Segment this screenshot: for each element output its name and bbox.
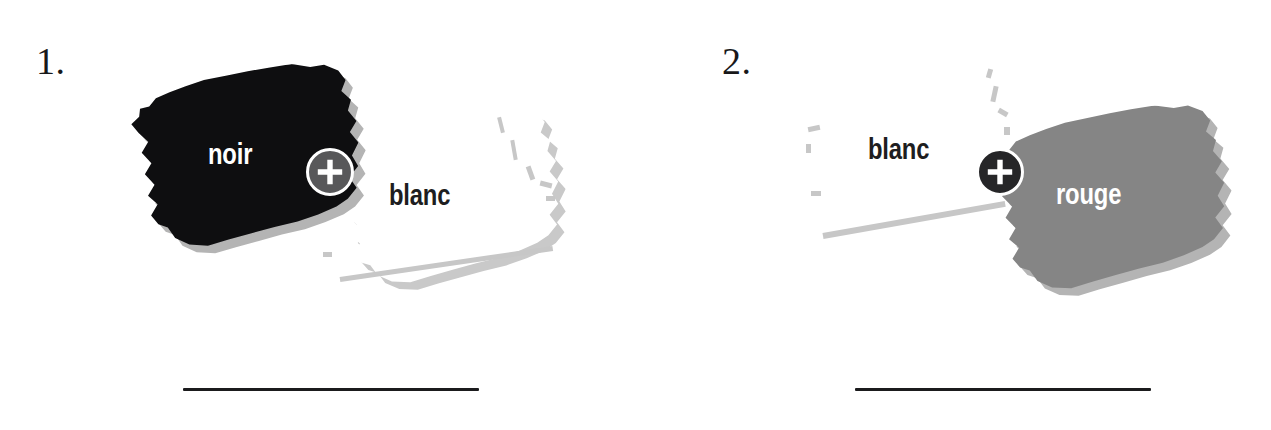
swatch-label-blanc-2: blanc: [868, 135, 929, 164]
swatch-outline-fragment: [546, 196, 555, 201]
plus-circle-icon: [976, 148, 1024, 196]
swatch-label-blanc-1: blanc: [389, 181, 450, 210]
plus-circle-icon: [306, 148, 354, 196]
swatch-outline-fragment: [990, 86, 998, 103]
swatch-label-rouge: rouge: [1056, 180, 1121, 209]
swatch-outline-fragment: [323, 252, 332, 257]
answer-line-2[interactable]: [855, 388, 1151, 391]
exercise-panel-1: 1. noir blanc: [0, 0, 635, 430]
swatch-shadow-edge: [822, 201, 1005, 239]
swatch-label-noir: noir: [208, 140, 252, 169]
swatch-outline-fragment: [806, 144, 811, 153]
exercise-number-2: 2.: [722, 42, 752, 80]
exercise-panel-2: 2. blanc rouge: [636, 0, 1271, 430]
exercise-number-1: 1.: [36, 42, 66, 80]
answer-line-1[interactable]: [183, 388, 479, 391]
swatch-outline-fragment: [808, 125, 821, 132]
swatch-outline-fragment: [811, 191, 821, 196]
worksheet-page: 1. noir blanc 2.: [0, 0, 1271, 430]
swatch-outline-fragment: [986, 68, 993, 78]
